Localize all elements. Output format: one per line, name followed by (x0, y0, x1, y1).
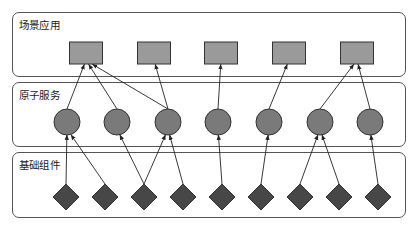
base-component-node-d7 (287, 184, 313, 210)
atomic-service-node-c7 (357, 109, 383, 135)
arrow-d7-to-c6 (300, 135, 318, 185)
arrow-d4-to-c3 (170, 135, 184, 185)
arrow-d1-to-c1 (66, 135, 67, 185)
arrow-c6-to-r5 (320, 64, 354, 109)
atomic-service-node-c2 (104, 109, 130, 135)
arrow-d8-to-c6 (322, 135, 339, 185)
arrow-d5-to-c4 (218, 135, 222, 185)
base-component-node-d4 (170, 184, 196, 210)
base-component-node-d2 (92, 184, 118, 210)
scene-app-node-r3 (205, 42, 238, 64)
arrow-d6-to-c5 (261, 135, 268, 185)
atomic-service-node-c1 (54, 109, 80, 135)
arrow-d3-to-c2 (120, 135, 144, 185)
atomic-service-node-c3 (155, 109, 181, 135)
scene-app-node-r4 (273, 42, 306, 64)
base-component-node-d3 (131, 184, 157, 210)
nodes (53, 42, 391, 210)
scene-app-node-r1 (70, 42, 103, 64)
scene-app-node-r5 (341, 42, 374, 64)
diagram-canvas (0, 0, 414, 229)
base-component-node-d9 (365, 184, 391, 210)
arrow-c4-to-r3 (218, 64, 221, 109)
atomic-service-node-c5 (256, 109, 282, 135)
base-component-node-d1 (53, 184, 79, 210)
base-component-node-d5 (209, 184, 235, 210)
arrow-c5-to-r4 (269, 64, 287, 109)
base-component-node-d8 (326, 184, 352, 210)
base-component-node-d6 (248, 184, 274, 210)
arrow-d2-to-c1 (71, 135, 105, 185)
arrow-d9-to-c7 (371, 135, 378, 185)
arrow-d3-to-c3 (144, 135, 166, 185)
atomic-service-node-c6 (307, 109, 333, 135)
arrow-c7-to-r5 (358, 64, 370, 109)
atomic-service-node-c4 (205, 109, 231, 135)
arrow-c1-to-r1 (67, 64, 84, 109)
scene-app-node-r2 (138, 42, 171, 64)
